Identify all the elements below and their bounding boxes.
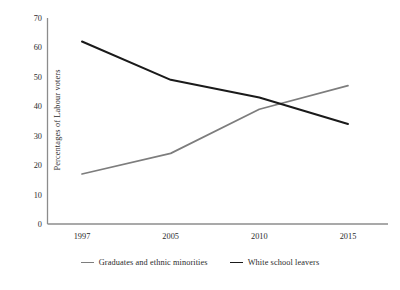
y-tick-label: 10 bbox=[20, 190, 42, 199]
x-tick-label: 1997 bbox=[62, 232, 102, 241]
series-line-white-school-leavers bbox=[82, 42, 348, 124]
legend-line-swatch bbox=[81, 262, 94, 263]
y-tick-label: 30 bbox=[20, 131, 42, 140]
chart-legend: Graduates and ethnic minoritiesWhite sch… bbox=[0, 258, 400, 267]
y-tick-label: 70 bbox=[20, 14, 42, 23]
y-tick-label: 0 bbox=[20, 220, 42, 229]
series-line-graduates-and-ethnic-minorities bbox=[82, 86, 348, 174]
y-tick-label: 20 bbox=[20, 161, 42, 170]
x-tick-label: 2005 bbox=[151, 232, 191, 241]
legend-line-swatch bbox=[230, 262, 243, 263]
line-chart-figure: Percentages of Labour voters 01020304050… bbox=[0, 0, 400, 290]
y-tick-label-group: 010203040506070 bbox=[20, 0, 42, 290]
y-tick-label: 40 bbox=[20, 102, 42, 111]
legend-label: Graduates and ethnic minorities bbox=[99, 258, 208, 267]
x-tick-label: 2015 bbox=[328, 232, 368, 241]
legend-label: White school leavers bbox=[248, 258, 320, 267]
y-axis-title: Percentages of Labour voters bbox=[53, 40, 62, 200]
y-tick-label: 50 bbox=[20, 72, 42, 81]
y-tick-label: 60 bbox=[20, 43, 42, 52]
legend-entry[interactable]: Graduates and ethnic minorities bbox=[81, 258, 208, 267]
legend-entry[interactable]: White school leavers bbox=[230, 258, 320, 267]
x-tick-label: 2010 bbox=[239, 232, 279, 241]
